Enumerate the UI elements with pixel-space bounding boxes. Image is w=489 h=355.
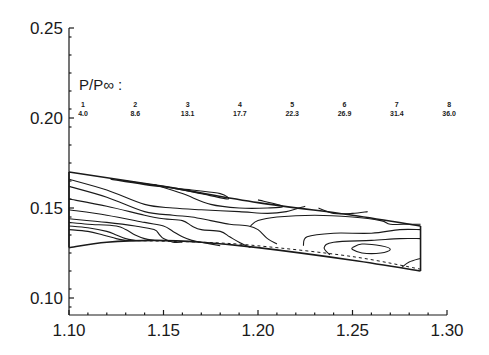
- legend-level-value: 31.4: [390, 110, 404, 117]
- contour-l: [318, 208, 367, 214]
- legend-level-index: 1: [81, 101, 85, 108]
- legend-level-value: 26.9: [338, 110, 352, 117]
- x-tick-label: 1.10: [52, 321, 85, 340]
- contour-d: [69, 186, 277, 244]
- legend-level-index: 3: [186, 101, 190, 108]
- contour-chart: 1.101.151.201.251.300.100.150.200.25 P/P…: [0, 0, 489, 355]
- legend-level-value: 4.0: [78, 110, 88, 117]
- contour-k: [250, 215, 420, 226]
- y-tick-label: 0.10: [30, 289, 63, 308]
- x-tick-label: 1.20: [241, 321, 274, 340]
- contour-m: [303, 229, 420, 245]
- contour-i: [69, 226, 135, 240]
- y-tick-label: 0.15: [30, 199, 63, 218]
- pressure-contours: [69, 179, 421, 269]
- legend-level-value: 36.0: [442, 110, 456, 117]
- x-tick-label: 1.30: [430, 321, 463, 340]
- axes: 1.101.151.201.251.300.100.150.200.25: [30, 19, 464, 340]
- legend-level-value: 17.7: [233, 110, 247, 117]
- x-tick-label: 1.25: [336, 321, 369, 340]
- nozzle-domain: [69, 172, 421, 271]
- legend-level-index: 7: [395, 101, 399, 108]
- legend-level-value: 22.3: [285, 110, 299, 117]
- y-tick-label: 0.25: [30, 19, 63, 38]
- contour-o: [352, 244, 391, 253]
- legend: P/P∞ : 14.028.6313.1417.7522.3626.9731.4…: [78, 76, 456, 117]
- legend-level-value: 8.6: [130, 110, 140, 117]
- legend-level-index: 2: [133, 101, 137, 108]
- legend-level-index: 6: [343, 101, 347, 108]
- x-tick-label: 1.15: [147, 321, 180, 340]
- legend-level-index: 8: [447, 101, 451, 108]
- y-tick-label: 0.20: [30, 109, 63, 128]
- legend-level-value: 13.1: [181, 110, 195, 117]
- legend-level-index: 4: [238, 101, 242, 108]
- legend-level-index: 5: [290, 101, 294, 108]
- legend-title: P/P∞ :: [79, 76, 122, 93]
- contour-p: [402, 258, 421, 267]
- contour-n: [324, 238, 420, 254]
